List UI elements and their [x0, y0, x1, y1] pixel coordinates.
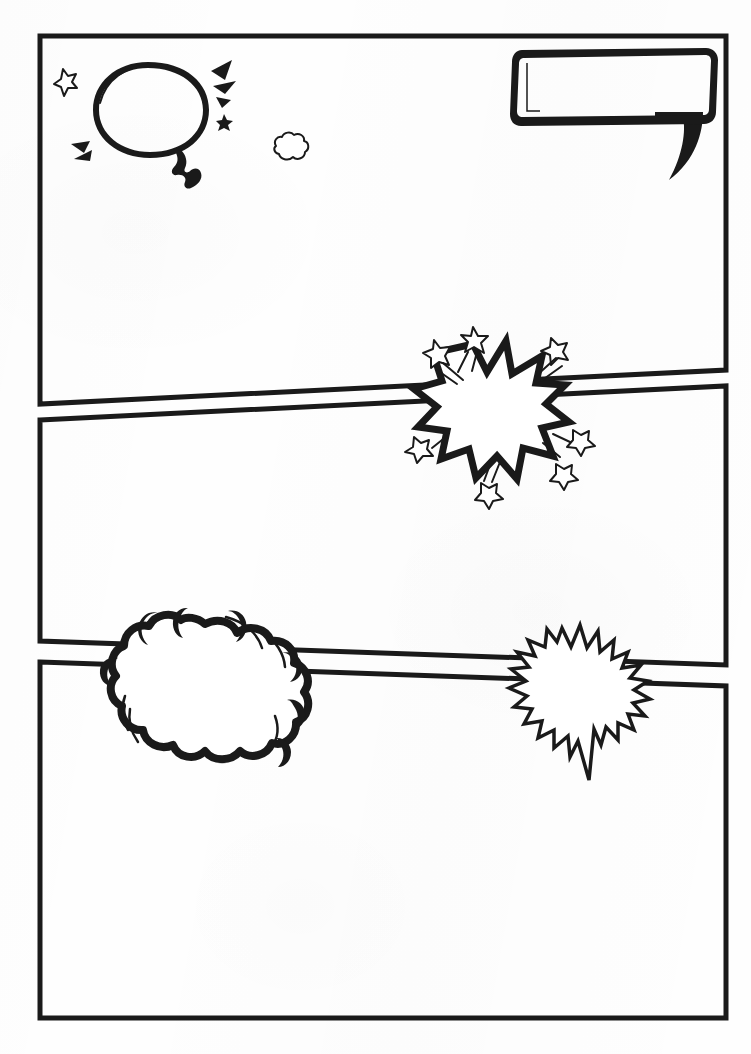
- spiky-balloon[interactable]: [509, 625, 650, 780]
- impact-lines-left: [71, 141, 92, 161]
- star-outline-icon: [405, 437, 433, 463]
- panel-borders: [40, 36, 726, 1018]
- speech-oval-icon: [93, 62, 209, 158]
- spiky-burst-icon: [509, 625, 650, 780]
- star-outline-icon: [54, 69, 77, 96]
- cloud-icon: [274, 133, 308, 160]
- balloon-tail: [172, 150, 202, 189]
- star-outline-icon: [541, 338, 568, 365]
- cloud-balloon[interactable]: [100, 608, 308, 767]
- small-cloud-puff[interactable]: [274, 133, 308, 160]
- small-solid-star-icon: [216, 114, 233, 131]
- star-outline-icon: [475, 483, 503, 509]
- comic-artwork: [0, 0, 751, 1054]
- rect-balloon-inner-line: [527, 63, 540, 111]
- comic-page: Blank Comic Book Page Template Panel 1 P…: [0, 0, 751, 1054]
- impact-lines-right: [211, 60, 236, 108]
- star-outline-icon: [423, 340, 450, 368]
- star-outline-icon: [550, 464, 578, 490]
- oval-speech-balloon[interactable]: [54, 60, 236, 189]
- panel-1-border[interactable]: [40, 36, 726, 404]
- rectangle-caption-balloon[interactable]: [510, 48, 718, 180]
- star-outline-icon: [567, 430, 595, 456]
- burst-balloon[interactable]: [405, 327, 595, 509]
